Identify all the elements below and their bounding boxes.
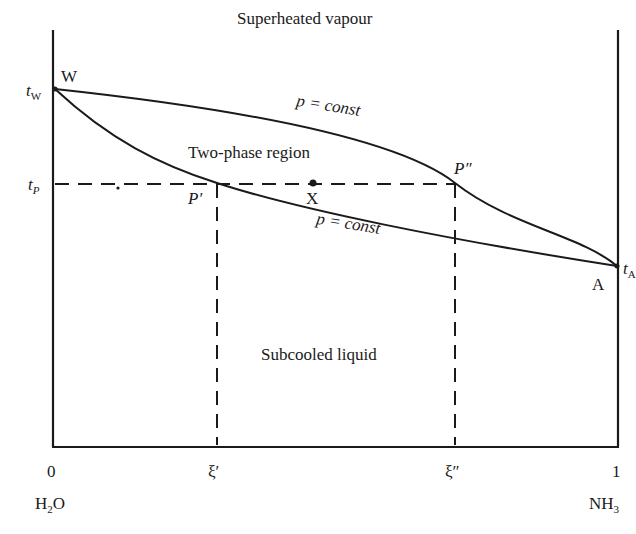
point-x-marker — [310, 180, 317, 187]
region-subcooled-liquid: Subcooled liquid — [261, 346, 377, 363]
region-superheated-vapour: Superheated vapour — [237, 10, 372, 27]
label-p-prime: P′ — [188, 190, 202, 207]
ta-sub: A — [628, 268, 636, 280]
x-tick-xi-prime: ξ′ — [208, 463, 219, 480]
tw-sub: W — [31, 90, 41, 102]
point-a-marker — [615, 264, 620, 269]
label-a: A — [592, 276, 604, 293]
region-two-phase: Two-phase region — [188, 144, 310, 161]
h2o-end: O — [53, 494, 65, 513]
point-w-marker — [53, 87, 58, 92]
label-ta: tA — [623, 260, 636, 277]
label-tw: tW — [26, 82, 41, 99]
label-p-double-prime: P″ — [454, 160, 471, 177]
stray-dot — [116, 186, 119, 189]
h2o-main: H — [35, 494, 47, 513]
x-tick-0: 0 — [47, 463, 56, 480]
component-nh3: NH3 — [589, 495, 619, 512]
x-tick-1: 1 — [612, 463, 621, 480]
tp-sub: P — [33, 184, 40, 196]
nh3-main: NH — [589, 494, 614, 513]
x-tick-xi-double-prime: ξ″ — [445, 463, 460, 480]
label-tp: tP — [28, 176, 39, 193]
component-h2o: H2O — [35, 495, 65, 512]
h2o-sub: 2 — [47, 503, 53, 515]
nh3-sub: 3 — [614, 503, 620, 515]
label-w: W — [61, 68, 77, 85]
label-x: X — [306, 190, 318, 207]
